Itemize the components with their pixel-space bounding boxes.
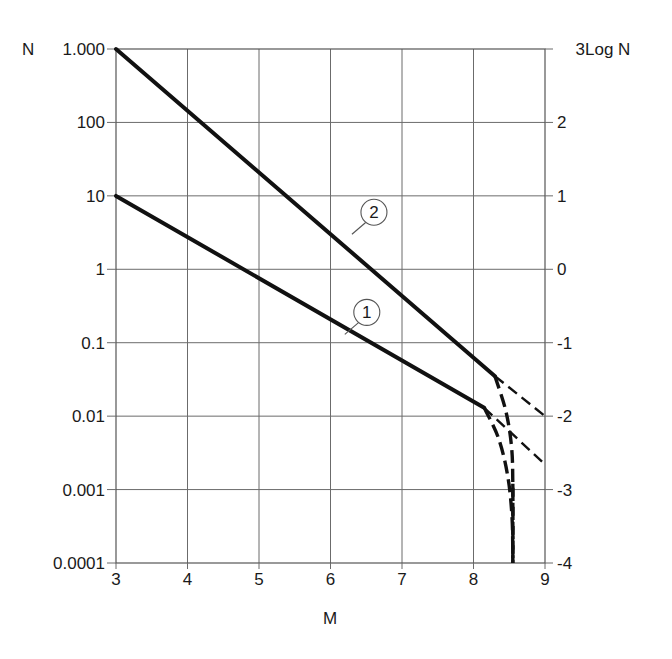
series-label-1: 1: [362, 303, 371, 322]
y-right-tick-label: -2: [557, 407, 572, 426]
series-2-line: [116, 49, 495, 376]
y-right-tick-label: 3: [576, 40, 585, 59]
y-right-tick-label: 0: [557, 260, 566, 279]
x-axis-title: M: [323, 609, 337, 628]
x-tick-label: 8: [469, 570, 478, 589]
x-tick-label: 3: [111, 570, 120, 589]
y-right-tick-label: 1: [557, 187, 566, 206]
series-1-cutoff-curve: [484, 408, 513, 563]
y-right-tick-label: -3: [557, 481, 572, 500]
y-left-tick-label: 100: [77, 113, 105, 132]
y-right-axis-title: Log N: [585, 40, 630, 59]
y-left-tick-label: 10: [86, 187, 105, 206]
y-left-tick-label: 0.001: [62, 481, 105, 500]
series-label-leader: [352, 222, 366, 234]
x-tick-label: 6: [326, 570, 335, 589]
x-tick-label: 7: [397, 570, 406, 589]
series-label-2: 2: [369, 203, 378, 222]
grid: [116, 49, 545, 563]
y-right-tick-label: -4: [557, 554, 572, 573]
x-tick-label: 5: [254, 570, 263, 589]
y-left-tick-label: 0.01: [72, 407, 105, 426]
series-2-cutoff-curve: [495, 376, 513, 563]
y-left-tick-label: 1: [96, 260, 105, 279]
y-left-tick-label: 0.0001: [53, 554, 105, 573]
y-left-tick-label: 1.000: [62, 40, 105, 59]
y-right-tick-label: 2: [557, 113, 566, 132]
y-left-axis-title: N: [22, 40, 34, 59]
y-right-tick-label: -1: [557, 334, 572, 353]
y-left-tick-label: 0.1: [81, 334, 105, 353]
x-tick-label: 4: [183, 570, 192, 589]
x-tick-label: 9: [540, 570, 549, 589]
chart: 34567891.00031002101100.1-10.01-20.001-3…: [0, 0, 672, 659]
series-1-line: [116, 196, 484, 408]
